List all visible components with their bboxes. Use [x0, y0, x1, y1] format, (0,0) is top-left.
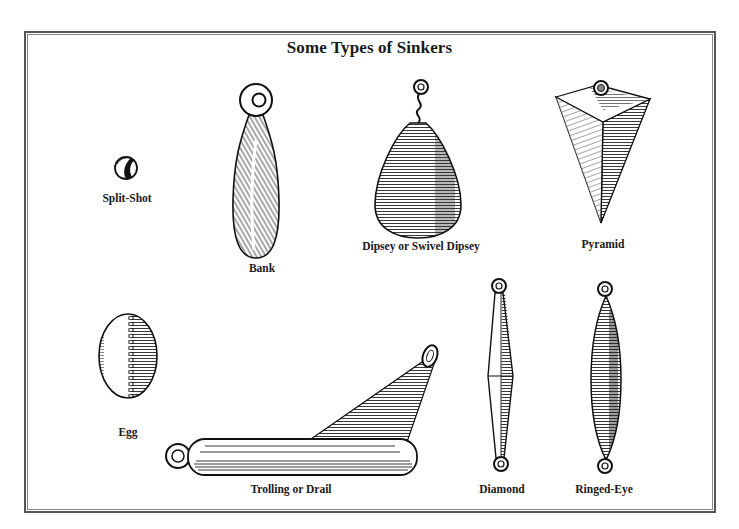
label-diamond: Diamond: [479, 483, 524, 495]
egg-illustration: [96, 312, 160, 402]
diamond-illustration: [488, 279, 513, 471]
label-pyramid: Pyramid: [582, 238, 625, 250]
pyramid-illustration: [556, 81, 650, 223]
bank-illustration: [233, 84, 279, 258]
split-shot-illustration: [115, 157, 137, 179]
label-split-shot: Split-Shot: [102, 192, 151, 204]
sinker-illustrations: [0, 0, 739, 529]
label-ringed-eye: Ringed-Eye: [575, 483, 633, 495]
dipsey-illustration: [370, 80, 466, 242]
label-trolling: Trolling or Drail: [250, 483, 331, 495]
ringed-eye-illustration: [585, 282, 627, 473]
trolling-illustration: [166, 343, 440, 475]
label-egg: Egg: [118, 426, 137, 438]
label-bank: Bank: [249, 262, 275, 274]
label-dipsey: Dipsey or Swivel Dipsey: [362, 240, 480, 252]
